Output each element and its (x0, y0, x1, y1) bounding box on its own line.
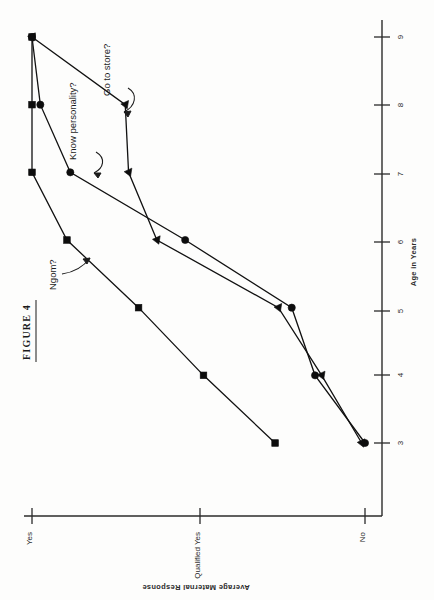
annotation-ngom: Ngom? (47, 258, 90, 290)
y-tick-qualified-yes: Qualified Yes (193, 508, 202, 579)
x-axis-ticks: 3 4 5 6 7 8 9 (374, 34, 405, 445)
data-point-marker (29, 101, 36, 108)
series-layer (28, 33, 369, 447)
figure-title: FIGURE 4 (21, 304, 32, 360)
x-tick-3: 3 (374, 440, 405, 445)
line-chart: FIGURE 4 3 4 5 6 (0, 0, 434, 600)
figure-title-group: FIGURE 4 (21, 300, 36, 362)
annotation-arrow-curve (94, 152, 103, 173)
x-tick-6: 6 (374, 239, 405, 244)
series-2 (28, 33, 365, 447)
data-point-marker (272, 440, 279, 447)
x-tick-4: 4 (374, 372, 405, 377)
annotation-arrow-head (94, 173, 101, 178)
x-tick-label: 8 (396, 102, 405, 107)
data-point-marker (182, 236, 189, 243)
data-point-marker (200, 372, 207, 379)
y-tick-label: Yes (25, 532, 34, 545)
annotation-label: Ngom? (47, 259, 58, 290)
annotation-label: Go to store? (101, 44, 112, 96)
data-point-marker (311, 372, 318, 379)
x-tick-9: 9 (374, 34, 405, 39)
x-tick-label: 5 (396, 308, 405, 313)
data-point-marker (274, 303, 282, 311)
series-1 (28, 33, 368, 446)
annotation-go-to-store: Go to store? (101, 44, 134, 117)
x-tick-label: 6 (396, 239, 405, 244)
y-tick-label: Qualified Yes (193, 532, 202, 579)
x-tick-8: 8 (374, 102, 405, 107)
x-tick-label: 7 (396, 171, 405, 176)
annotation-arrow-head (83, 258, 90, 264)
y-tick-yes: Yes (25, 508, 34, 545)
annotation-label: Know personality? (67, 82, 78, 160)
series-line (32, 37, 365, 443)
x-tick-7: 7 (374, 171, 405, 176)
y-tick-label: No (358, 531, 367, 542)
x-tick-5: 5 (374, 308, 405, 313)
data-point-marker (67, 169, 74, 176)
annotation-know-personality: Know personality? (67, 82, 103, 178)
x-tick-label: 4 (396, 372, 405, 377)
y-axis-title: Average Maternal Response (142, 583, 250, 592)
data-point-marker (135, 304, 142, 311)
figure-container: FIGURE 4 3 4 5 6 (0, 0, 434, 600)
data-point-marker (357, 439, 365, 447)
data-point-marker (64, 237, 71, 244)
data-point-marker (29, 169, 36, 176)
y-tick-no: No (358, 508, 367, 542)
data-point-marker (37, 101, 44, 108)
annotation-arrow-head (124, 111, 131, 117)
x-axis-title: Age in Years (409, 238, 418, 287)
x-tick-label: 9 (396, 34, 405, 39)
data-point-marker (317, 371, 325, 379)
data-point-marker (288, 304, 295, 311)
series-line (32, 37, 362, 443)
x-tick-label: 3 (396, 440, 405, 445)
y-axis-ticks: Yes Qualified Yes No (25, 508, 367, 579)
